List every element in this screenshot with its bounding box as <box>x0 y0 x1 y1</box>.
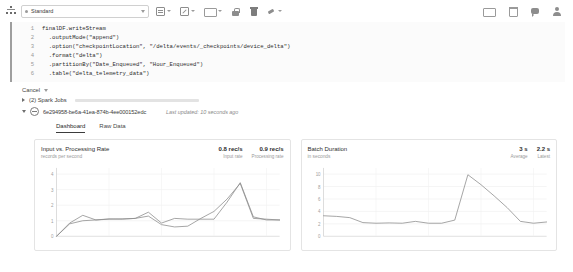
metric-value: 3 s <box>511 145 528 153</box>
line-number: 4 <box>12 51 42 60</box>
code-line: 6 .table("delta_telemetry_data") <box>12 69 565 78</box>
lock-icon <box>231 7 240 16</box>
metric-input-rate: 0.8 rec/s Input rate <box>219 145 243 160</box>
chevron-down-icon <box>44 89 48 92</box>
edit-menu-button[interactable] <box>178 5 197 18</box>
streaming-query-row[interactable]: 6e294958-be6a-41ea-874b-4ee000152edc Las… <box>22 107 573 119</box>
tab-dashboard[interactable]: Dashboard <box>56 123 85 133</box>
svg-text:3: 3 <box>51 188 54 193</box>
line-text: .partitionBy("Date_Enqueued", "Hour_Enqu… <box>42 60 203 69</box>
panel-title-group: Batch Duration in seconds <box>308 145 348 160</box>
line-number: 6 <box>12 69 42 78</box>
edit-pencil-icon <box>180 7 189 16</box>
svg-text:8: 8 <box>318 184 321 189</box>
query-id: 6e294958-be6a-41ea-874b-4ee000152edc <box>43 109 146 115</box>
tab-raw-data[interactable]: Raw Data <box>99 123 125 133</box>
stream-status-icon <box>30 107 39 116</box>
stream-tabs: Dashboard Raw Data <box>22 119 573 133</box>
chevron-down-icon <box>167 10 171 12</box>
view-menu-button[interactable] <box>202 5 224 18</box>
panel-header: Batch Duration in seconds 3 s Average 2.… <box>308 145 551 160</box>
file-icon <box>156 7 165 16</box>
last-updated-label: Last updated: 10 seconds ago <box>166 109 238 115</box>
line-number: 5 <box>12 60 42 69</box>
cancel-link[interactable]: Cancel <box>22 87 40 93</box>
metric-processing-rate: 0.9 rec/s Processing rate <box>252 145 284 160</box>
batch-duration-panel: Batch Duration in seconds 3 s Average 2.… <box>301 139 558 251</box>
code-line: 3 .option("checkpointLocation", "/delta/… <box>12 42 565 51</box>
svg-text:6: 6 <box>318 197 321 202</box>
panel-subtitle: records per second <box>41 153 109 160</box>
line-text: .table("delta_telemetry_data") <box>42 69 149 78</box>
code-cell[interactable]: 1 finalDF.writeStream 2 .outputMode("app… <box>10 22 565 82</box>
svg-text:1: 1 <box>51 219 54 224</box>
batch-duration-plot: 0246810 <box>308 164 551 248</box>
collapse-triangle-icon[interactable] <box>22 110 26 113</box>
spark-jobs-label: (2) Spark Jobs <box>29 97 67 103</box>
line-text: .format("delta") <box>42 51 102 60</box>
metric-label: Input rate <box>219 153 243 160</box>
panel-title: Input vs. Processing Rate <box>41 145 109 153</box>
metric-value: 2.2 s <box>537 145 550 153</box>
chevron-down-icon <box>278 10 282 12</box>
plug-icon <box>267 7 276 16</box>
cancel-row[interactable]: Cancel <box>22 87 573 97</box>
svg-text:10: 10 <box>315 172 320 177</box>
code-line: 5 .partitionBy("Date_Enqueued", "Hour_En… <box>12 60 565 69</box>
panel-metrics: 3 s Average 2.2 s Latest <box>511 145 550 160</box>
chevron-down-icon <box>218 10 222 12</box>
panel-title: Batch Duration <box>308 145 348 153</box>
metric-label: Processing rate <box>252 153 284 160</box>
panel-header: Input vs. Processing Rate records per se… <box>41 145 284 160</box>
user-icon[interactable] <box>552 7 561 16</box>
cluster-name-label: Standard <box>31 8 53 14</box>
metric-label: Latest <box>537 153 550 160</box>
svg-text:0: 0 <box>318 234 321 239</box>
svg-text:4: 4 <box>318 209 321 214</box>
expand-triangle-icon[interactable] <box>22 98 25 102</box>
calendar-icon[interactable] <box>508 7 517 16</box>
job-progress-bar <box>75 99 199 102</box>
svg-text:4: 4 <box>51 172 54 177</box>
cluster-icon <box>6 6 16 16</box>
panel-metrics: 0.8 rec/s Input rate 0.9 rec/s Processin… <box>219 145 284 160</box>
chevron-down-icon <box>191 10 195 12</box>
attach-detach-button[interactable] <box>265 5 284 18</box>
input-vs-processing-rate-panel: Input vs. Processing Rate records per se… <box>34 139 291 251</box>
metric-value: 0.8 rec/s <box>219 145 243 153</box>
delete-cell-button[interactable] <box>247 5 260 18</box>
execution-status: Cancel (2) Spark Jobs 6e294958-be6a-41ea… <box>0 82 573 133</box>
panel-subtitle: in seconds <box>308 153 348 160</box>
toolbar-right-group <box>483 7 567 16</box>
spark-jobs-row[interactable]: (2) Spark Jobs <box>22 97 573 107</box>
metric-value: 0.9 rec/s <box>252 145 284 153</box>
chevron-down-icon <box>141 10 145 13</box>
comment-icon[interactable] <box>530 7 539 16</box>
toolbar-left-group: Standard <box>6 5 284 18</box>
line-text: .outputMode("append") <box>42 33 119 42</box>
permissions-button[interactable] <box>229 5 242 18</box>
code-line: 4 .format("delta") <box>12 51 565 60</box>
panel-title-group: Input vs. Processing Rate records per se… <box>41 145 109 160</box>
line-text: finalDF.writeStream <box>42 24 106 33</box>
svg-text:2: 2 <box>318 222 321 227</box>
code-line: 1 finalDF.writeStream <box>12 24 565 33</box>
cluster-selector[interactable]: Standard <box>21 5 149 18</box>
svg-text:2: 2 <box>51 203 54 208</box>
trash-icon <box>249 7 258 16</box>
metric-latest: 2.2 s Latest <box>537 145 550 160</box>
cluster-status-dot <box>25 10 28 13</box>
line-number: 2 <box>12 33 42 42</box>
metric-average: 3 s Average <box>511 145 528 160</box>
line-number: 1 <box>12 24 42 33</box>
dashboard-panels: Input vs. Processing Rate records per se… <box>0 133 573 251</box>
code-line: 2 .outputMode("append") <box>12 33 565 42</box>
file-menu-button[interactable] <box>154 5 173 18</box>
line-number: 3 <box>12 42 42 51</box>
view-icon <box>204 7 216 16</box>
svg-text:0: 0 <box>51 234 54 239</box>
line-text: .option("checkpointLocation", "/delta/ev… <box>42 42 290 51</box>
monitor-icon[interactable] <box>483 7 495 16</box>
input-vs-processing-rate-plot: 01234 <box>41 164 284 248</box>
notebook-toolbar: Standard <box>0 0 573 22</box>
